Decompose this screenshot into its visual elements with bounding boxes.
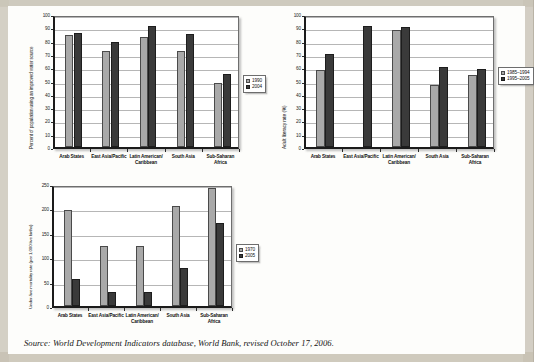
y-axis-tick-label: 250: [38, 184, 49, 189]
y-axis-tick-mark: [51, 136, 53, 137]
y-axis-tick-mark: [302, 83, 304, 84]
x-axis-tick-mark: [380, 149, 381, 152]
bar: [74, 33, 82, 147]
chart-legend[interactable]: 19702005: [236, 244, 259, 262]
x-axis-tick-mark: [494, 149, 495, 152]
legend-swatch-icon: [501, 77, 505, 81]
legend-item[interactable]: 2005: [239, 253, 255, 259]
x-axis-tick-mark: [232, 308, 233, 311]
y-axis-tick-label: 20: [290, 120, 301, 125]
x-axis-tick-mark: [342, 149, 343, 152]
y-axis-tick-mark: [302, 109, 304, 110]
y-axis-tick-mark: [302, 69, 304, 70]
bar: [430, 85, 438, 148]
y-axis-tick-label: 50: [290, 80, 301, 85]
y-axis-tick-mark: [51, 29, 53, 30]
y-axis-title: Percent of population using an improved …: [29, 16, 34, 149]
y-axis-tick-mark: [302, 29, 304, 30]
y-axis-tick-mark: [302, 149, 304, 150]
x-axis-tick-mark: [90, 149, 91, 152]
bar: [144, 292, 152, 306]
y-axis-tick-mark: [51, 83, 53, 84]
y-axis-tick-mark: [50, 308, 52, 309]
bar: [186, 34, 194, 147]
bar: [148, 26, 156, 147]
y-axis-tick-label: 50: [38, 281, 49, 286]
y-axis-tick-label: 90: [290, 27, 301, 32]
bar: [111, 42, 119, 147]
gridline: [55, 17, 238, 18]
y-axis-tick-mark: [50, 235, 52, 236]
bar: [316, 70, 324, 147]
y-axis-tick-label: 70: [39, 54, 50, 59]
legend-item[interactable]: 1995–2005: [501, 76, 530, 82]
plot-area: [52, 186, 232, 308]
bar: [172, 206, 180, 306]
bar: [136, 246, 144, 306]
legend-swatch-icon: [246, 85, 250, 89]
bar: [392, 30, 400, 147]
x-axis-category-label: Sub-Saharan Africa: [456, 154, 494, 166]
legend-label: 1990: [252, 79, 262, 84]
x-axis-category-label: East Asia/Pacific: [342, 154, 380, 160]
legend-label: 1995–2005: [507, 77, 530, 82]
legend-swatch-icon: [501, 71, 505, 75]
x-axis-tick-mark: [127, 149, 128, 152]
y-axis-tick-mark: [51, 109, 53, 110]
x-axis-category-label: East Asia/Pacific: [88, 313, 124, 319]
y-axis-tick-label: 80: [39, 40, 50, 45]
y-axis-tick-mark: [51, 96, 53, 97]
bar: [64, 210, 72, 306]
plot-area: [304, 16, 494, 149]
y-axis-tick-label: 100: [38, 257, 49, 262]
x-axis-category-label: Sub-Saharan Africa: [202, 154, 239, 166]
y-axis-tick-label: 100: [39, 14, 50, 19]
x-axis-category-label: South Asia: [418, 154, 456, 160]
source-caption: Source: World Development Indicators dat…: [24, 338, 334, 348]
y-axis-tick-mark: [302, 43, 304, 44]
bar: [102, 51, 110, 147]
x-axis-tick-mark: [88, 308, 89, 311]
chart-legend[interactable]: 19902004: [243, 75, 266, 93]
y-axis-tick-label: 40: [290, 94, 301, 99]
x-axis-category-label: Arab States: [304, 154, 342, 160]
x-axis-tick-mark: [456, 149, 457, 152]
bar: [208, 188, 216, 306]
y-axis-tick-label: 60: [39, 67, 50, 72]
y-axis-tick-label: 10: [290, 133, 301, 138]
y-axis-tick-mark: [51, 43, 53, 44]
legend-swatch-icon: [239, 254, 243, 258]
x-axis-category-label: South Asia: [165, 154, 202, 160]
x-axis-tick-mark: [160, 308, 161, 311]
bar: [72, 279, 80, 306]
under-five-mortality-chart: 050100150200250Arab StatesEast Asia/Paci…: [22, 182, 272, 332]
bar: [177, 51, 185, 147]
y-axis-tick-mark: [302, 136, 304, 137]
y-axis-tick-label: 30: [290, 107, 301, 112]
bar: [325, 54, 333, 147]
legend-item[interactable]: 2004: [246, 84, 262, 90]
y-axis-tick-mark: [51, 122, 53, 123]
bar: [140, 37, 148, 147]
x-axis-category-label: Sub-Saharan Africa: [196, 313, 232, 325]
legend-swatch-icon: [239, 248, 243, 252]
y-axis-tick-label: 70: [290, 54, 301, 59]
legend-label: 1985–1994: [507, 71, 530, 76]
bar: [108, 292, 116, 306]
gridline: [54, 236, 231, 237]
water-source-chart: 0102030405060708090100Arab StatesEast As…: [22, 12, 272, 177]
plot-area: [53, 16, 239, 149]
y-axis-tick-label: 10: [39, 133, 50, 138]
y-axis-title: Adult literacy rate (%): [282, 16, 287, 149]
bar: [65, 35, 73, 147]
gridline: [54, 187, 231, 188]
y-axis-tick-mark: [50, 186, 52, 187]
x-axis-category-label: East Asia/Pacific: [90, 154, 127, 160]
bar: [100, 246, 108, 306]
x-axis-tick-mark: [124, 308, 125, 311]
gridline: [54, 211, 231, 212]
chart-legend[interactable]: 1985–19941995–2005: [498, 67, 534, 85]
y-axis-tick-mark: [51, 69, 53, 70]
y-axis-tick-mark: [302, 96, 304, 97]
